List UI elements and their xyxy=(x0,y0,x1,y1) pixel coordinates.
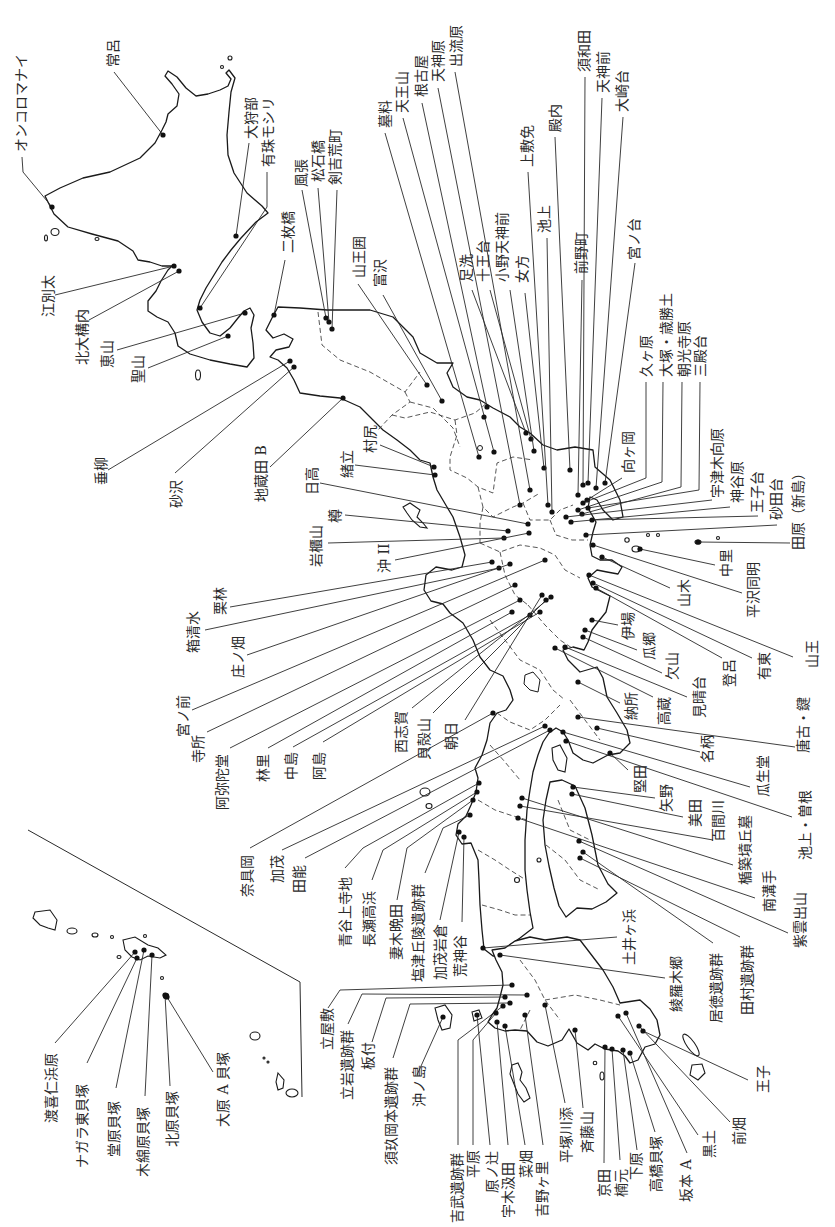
site-label: 日高 xyxy=(304,467,320,495)
leader-line xyxy=(145,955,152,1096)
site-label: 宮ノ前 xyxy=(175,695,191,737)
site-marker xyxy=(580,634,585,639)
sites-okinawa: 渡喜仁浜原 ナガラ東貝塚 堂原貝塚 木綿原貝塚 北原貝塚 大原 A 貝塚 xyxy=(43,947,231,1177)
site-label: 砂田台 xyxy=(768,478,784,520)
site-label: 欠山 xyxy=(664,652,680,680)
site-marker xyxy=(497,952,502,957)
site-label: 王子台 xyxy=(749,471,765,513)
leader-line xyxy=(318,188,329,322)
site-marker xyxy=(480,945,485,950)
site: 渡喜仁浜原 xyxy=(43,949,138,1123)
site-label: 栗林 xyxy=(212,587,228,615)
site-label: 平沢同明 xyxy=(745,562,761,618)
island-yakushima xyxy=(690,1064,705,1080)
site-label: 聖山 xyxy=(130,355,146,383)
site-label: 立屋敷 xyxy=(319,1008,335,1050)
leader-line xyxy=(698,542,790,543)
site-marker xyxy=(547,727,552,732)
site-marker xyxy=(329,326,334,331)
site-marker xyxy=(494,1019,499,1024)
site-marker xyxy=(134,955,139,960)
inset-border xyxy=(28,830,302,1097)
leader-line xyxy=(596,117,623,488)
site-marker xyxy=(575,714,580,719)
site-marker xyxy=(575,492,580,497)
ryukyu-inset xyxy=(28,830,302,1097)
site-label: 坂本 A xyxy=(678,1159,694,1202)
site: 地蔵田 B xyxy=(253,395,346,502)
site-marker xyxy=(580,482,585,487)
site-marker xyxy=(560,729,565,734)
site-marker xyxy=(567,467,572,472)
site: 中里 xyxy=(637,546,734,577)
site-marker xyxy=(225,333,230,338)
site-label: 田原（新島） xyxy=(790,466,806,550)
leader-line xyxy=(640,549,715,565)
site-label: 美田 xyxy=(687,799,703,827)
island-goto xyxy=(510,1063,530,1102)
site-marker xyxy=(522,1012,527,1017)
site-marker xyxy=(543,597,548,602)
site-label: 宇津木向原 xyxy=(709,428,725,498)
site-label: 岩櫃山 xyxy=(308,525,324,567)
leader-line xyxy=(302,190,326,318)
site-marker xyxy=(432,472,437,477)
site-label: 根古屋 xyxy=(413,55,429,97)
island-okinoerabu xyxy=(92,933,98,937)
site-marker xyxy=(602,1044,607,1049)
island-tanegashima xyxy=(680,1032,701,1058)
site-label: 天神原 xyxy=(430,40,446,82)
site-label: 沖 II xyxy=(376,543,392,573)
site-marker xyxy=(545,502,550,507)
site-label: 女方 xyxy=(514,255,530,283)
site-label: 箱清水 xyxy=(185,611,201,653)
site-label: 長瀬高浜 xyxy=(361,891,377,947)
site-label: 伊場 xyxy=(620,612,636,640)
site-marker xyxy=(439,398,444,403)
site-marker xyxy=(517,803,522,808)
site-marker xyxy=(507,561,512,566)
site: 剣吉荒町 xyxy=(327,129,343,332)
site-label: 加茂 xyxy=(269,855,285,883)
site: 堅田 xyxy=(607,750,648,793)
site-marker xyxy=(637,546,642,551)
site-label: 大狩部 xyxy=(243,97,259,139)
site-marker xyxy=(539,592,544,597)
site-label: 池上・曽根 xyxy=(797,790,813,860)
site-label: 渡喜仁浜原 xyxy=(43,1053,59,1123)
site-marker xyxy=(517,502,522,507)
site-marker xyxy=(500,1003,505,1008)
site-label: 見晴台 xyxy=(691,676,707,718)
site-label: 庄ノ畑 xyxy=(230,636,246,678)
site-label: ナガラ東貝塚 xyxy=(74,1084,90,1168)
site-label: 砂沢 xyxy=(168,480,184,508)
site-marker xyxy=(149,952,154,957)
site-label: 高橋貝塚 xyxy=(648,1136,664,1192)
island-tokunoshima xyxy=(67,928,77,934)
site-label: 瓜郷 xyxy=(641,632,657,660)
leader-line xyxy=(167,997,213,1072)
island-rebun xyxy=(45,235,48,241)
site: オンコロマナイ xyxy=(13,54,55,210)
site-label: 阿島 xyxy=(311,752,327,780)
leader-line xyxy=(355,465,435,475)
site-label: 向ヶ岡 xyxy=(620,431,636,473)
site-label: 朝光寺原 xyxy=(676,321,692,377)
leader-line xyxy=(623,1050,637,1150)
site: 北原貝塚 xyxy=(162,992,180,1147)
island-tarama xyxy=(263,1057,265,1059)
leader-line xyxy=(87,958,137,1063)
site: 沖ノ島 xyxy=(411,1014,446,1107)
site-marker xyxy=(552,645,557,650)
site-label: 原ノ辻 xyxy=(484,1151,500,1193)
site: 大崎台 xyxy=(593,70,630,491)
site-marker xyxy=(537,609,542,614)
site-label: 上敷免 xyxy=(519,125,535,167)
leader-line xyxy=(555,137,570,470)
site-marker xyxy=(695,539,700,544)
site-label: 堅田 xyxy=(632,765,648,793)
site-label: 十王台 xyxy=(475,240,491,282)
site-label: 塩津丘陵遺跡群 xyxy=(410,884,426,982)
site-marker xyxy=(623,1010,628,1015)
site-marker xyxy=(132,949,137,954)
